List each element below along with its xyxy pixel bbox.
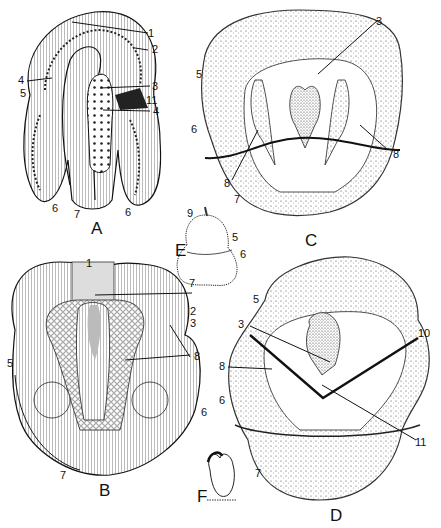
panel-f: F	[0, 0, 441, 528]
panel-letter-f: F	[197, 488, 207, 505]
